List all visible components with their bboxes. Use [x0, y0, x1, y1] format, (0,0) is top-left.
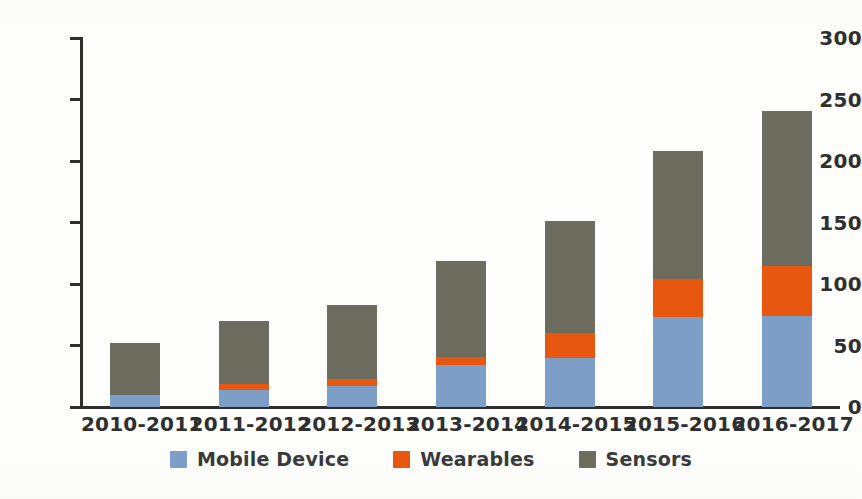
- bar-segment-mobile-device[interactable]: [327, 386, 377, 407]
- bar-segment-sensors[interactable]: [545, 221, 595, 333]
- y-axis-tick-mark: [70, 283, 81, 286]
- bar-group[interactable]: [545, 221, 595, 407]
- stacked-bar-chart: 050100150200250300 2010-20112011-2012201…: [0, 0, 862, 499]
- bar-segment-sensors[interactable]: [436, 261, 486, 357]
- bar-segment-mobile-device[interactable]: [653, 317, 703, 407]
- legend-label: Wearables: [420, 448, 534, 470]
- bar-group[interactable]: [327, 305, 377, 407]
- y-axis-tick-mark: [70, 160, 81, 163]
- bar-segment-mobile-device[interactable]: [110, 395, 160, 407]
- bar-segment-wearables[interactable]: [653, 279, 703, 317]
- plot-area: [81, 38, 841, 407]
- bar-segment-sensors[interactable]: [762, 111, 812, 266]
- bar-segment-mobile-device[interactable]: [219, 390, 269, 407]
- bar-segment-mobile-device[interactable]: [436, 365, 486, 407]
- x-axis-tick-label: 2011-2012: [190, 412, 299, 436]
- bar-group[interactable]: [653, 151, 703, 407]
- bar-group[interactable]: [762, 111, 812, 407]
- bar-segment-sensors[interactable]: [219, 321, 269, 384]
- bar-group[interactable]: [436, 261, 486, 407]
- x-axis-tick-label: 2016-2017: [732, 412, 841, 436]
- y-axis-tick-mark: [70, 406, 81, 409]
- bar-segment-sensors[interactable]: [327, 305, 377, 379]
- legend-swatch-icon: [579, 451, 596, 468]
- chart-legend: Mobile DeviceWearablesSensors: [0, 448, 862, 470]
- x-axis-tick-label: 2010-2011: [81, 412, 190, 436]
- bar-group[interactable]: [110, 343, 160, 407]
- bar-segment-wearables[interactable]: [327, 379, 377, 386]
- y-axis-tick-mark: [70, 221, 81, 224]
- y-axis-tick-mark: [70, 98, 81, 101]
- bar-segment-mobile-device[interactable]: [762, 316, 812, 407]
- y-axis-tick-mark: [70, 37, 81, 40]
- bar-segment-wearables[interactable]: [762, 266, 812, 316]
- x-axis-tick-label: 2014-2015: [515, 412, 624, 436]
- bar-segment-sensors[interactable]: [653, 151, 703, 279]
- x-axis-tick-label: 2012-2013: [298, 412, 407, 436]
- bar-group[interactable]: [219, 321, 269, 407]
- legend-item[interactable]: Sensors: [579, 448, 693, 470]
- legend-item[interactable]: Wearables: [393, 448, 534, 470]
- bar-segment-wearables[interactable]: [545, 333, 595, 358]
- x-axis-tick-label: 2015-2016: [624, 412, 733, 436]
- bar-segment-mobile-device[interactable]: [545, 358, 595, 407]
- legend-swatch-icon: [393, 451, 410, 468]
- bar-segment-sensors[interactable]: [110, 343, 160, 395]
- x-axis-tick-label: 2013-2014: [407, 412, 516, 436]
- legend-swatch-icon: [170, 451, 187, 468]
- legend-label: Mobile Device: [197, 448, 349, 470]
- bar-segment-wearables[interactable]: [436, 357, 486, 366]
- legend-item[interactable]: Mobile Device: [170, 448, 349, 470]
- y-axis-tick-mark: [70, 344, 81, 347]
- legend-label: Sensors: [606, 448, 693, 470]
